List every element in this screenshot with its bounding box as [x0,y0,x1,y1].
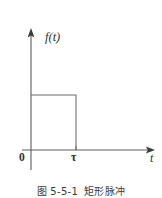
figure-caption-number: 图 5-5-1 [37,186,79,197]
origin-label: 0 [19,152,25,164]
tau-tick-label: τ [71,152,76,164]
figure-caption: 图 5-5-1矩形脉冲 [0,183,162,198]
pulse-waveform [31,95,76,150]
figure-caption-title: 矩形脉冲 [84,186,125,197]
figure-container: f(t) t 0 τ 图 5-5-1矩形脉冲 [0,0,162,198]
x-axis-label: t [150,152,153,164]
y-axis-label: f(t) [45,31,60,44]
